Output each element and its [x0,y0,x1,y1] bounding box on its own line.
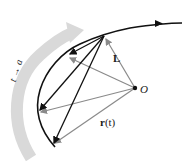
label-L: L [113,53,120,64]
label-position-vector: r(t) [100,117,115,128]
label-r-arg: (t) [105,116,115,128]
diagram-canvas: L O r(t) t → a [0,0,190,166]
limit-direction-arrow [17,22,84,158]
vector-to-point-1 [70,58,135,88]
tangent-limit-diagram [0,0,190,166]
origin-point [133,86,137,90]
chord-1 [70,36,104,54]
curve-direction-arrowhead [155,20,163,27]
label-origin: O [140,84,148,95]
